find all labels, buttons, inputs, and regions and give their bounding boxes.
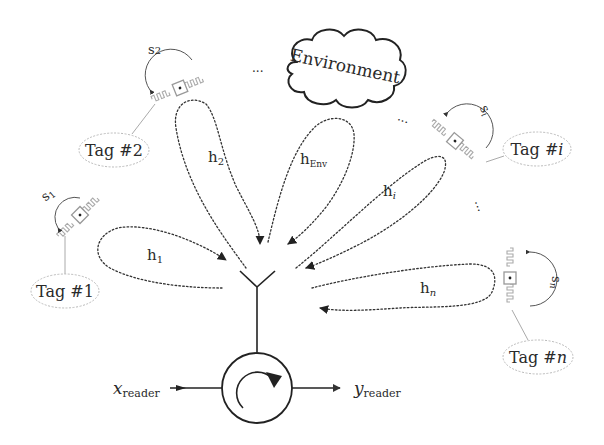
channel-hi-loop: hi [296, 156, 446, 268]
reader-antenna [240, 271, 275, 352]
y-reader-label: yreader [353, 378, 401, 400]
input-arrow-icon [176, 385, 186, 391]
circulator [222, 353, 292, 423]
channel-henv-label: hEnv [300, 150, 328, 169]
channel-hn-loop: hn [312, 264, 495, 310]
ellipsis-top: ... [252, 61, 263, 75]
tag-2: s2 Tag #2 [79, 42, 205, 167]
tag-2-state: s2 [148, 42, 161, 57]
channel-hi-label: hi [383, 182, 396, 201]
tag-n-state: sn [548, 276, 564, 289]
channel-h2-loop: h2 [175, 100, 260, 268]
channel-hn-label: hn [420, 279, 436, 298]
tag-1-antenna-icon [55, 194, 102, 241]
tag-n: sn Tag #n [503, 248, 573, 374]
channel-h1-loop: h1 [98, 227, 226, 288]
tag-i-label: Tag #i [511, 140, 564, 159]
tag-n-label: Tag #n [509, 348, 567, 367]
tag-i-state: si [476, 102, 495, 118]
tag-i: si Tag #i [428, 102, 571, 166]
x-reader-label: xreader [113, 378, 160, 400]
tag-1: s1 Tag #1 [31, 184, 101, 308]
channel-h1-label: h1 [147, 246, 163, 265]
tag-n-antenna-icon [504, 248, 516, 302]
backscatter-diagram: Environment ... ... ... h1 h2 hEnv hi [0, 0, 604, 445]
channel-henv-loop: hEnv [268, 118, 354, 244]
tag-i-antenna-icon [428, 117, 477, 161]
tag-1-label: Tag #1 [36, 282, 94, 301]
ellipsis-lower-right: ... [472, 198, 489, 214]
channel-h2-label: h2 [208, 148, 224, 167]
environment-cloud: Environment [288, 30, 406, 108]
ellipsis-right: ... [396, 109, 412, 126]
tag-1-state: s1 [38, 184, 58, 204]
tag-2-label: Tag #2 [85, 141, 143, 160]
